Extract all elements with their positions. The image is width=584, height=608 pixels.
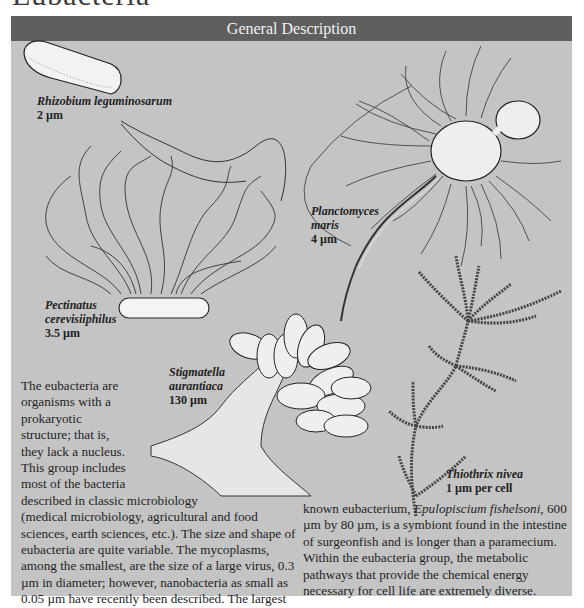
description-line: pathways that provide the chemical energ… [303, 567, 568, 583]
pectinatus-name-line2: cerevisiiphilus [45, 312, 116, 326]
description-line: µm in diameter; however, nanobacteria as… [21, 575, 321, 591]
description-line: of surgeonfish and is longer than a para… [303, 534, 568, 550]
epulopiscium-name: Epulopiscium fishelsoni [414, 501, 540, 516]
description-line: sciences, earth sciences, etc.). The siz… [21, 526, 321, 542]
description-line: Within the eubacteria group, the metabol… [303, 550, 568, 566]
description-line: among the smallest, are the size of a la… [21, 558, 321, 574]
pectinatus-size: 3.5 µm [45, 326, 116, 340]
stigmatella-name-line1: Stigmatella [169, 365, 225, 379]
pectinatus-name-line1: Pectinatus [45, 298, 116, 312]
rhizobium-label: Rhizobium leguminosarum 2 µm [37, 94, 172, 122]
thiothrix-label: Thiothrix nivea 1 µm per cell [446, 467, 523, 495]
description-line: they lack a nucleus. [21, 444, 321, 460]
description-line: organisms with a [21, 394, 321, 410]
description-line: This group includes [21, 460, 321, 476]
pectinatus-label: Pectinatus cerevisiiphilus 3.5 µm [45, 298, 116, 340]
planctomyces-size: 4 µm [311, 232, 379, 246]
description-line: 0.05 µm have recently been described. Th… [21, 591, 321, 607]
thiothrix-size: 1 µm per cell [446, 481, 523, 495]
planctomyces-label: Planctomyces maris 4 µm [311, 204, 379, 246]
description-left: The eubacteria are organisms with a prok… [21, 378, 321, 608]
page-title: Eubacteria [12, 0, 150, 12]
description-line: µm by 80 µm, is a symbiont found in the … [303, 517, 568, 533]
description-line: eubacteria are quite variable. The mycop… [21, 542, 321, 558]
description-line: necessary for cell life are extremely di… [303, 583, 568, 599]
description-line: structure; that is, [21, 427, 321, 443]
pectinatus-illustration [46, 146, 276, 318]
general-description-panel: General Description [11, 16, 572, 596]
description-line: The eubacteria are [21, 378, 321, 394]
rhizobium-name: Rhizobium leguminosarum [37, 94, 172, 108]
description-right: known eubacterium, Epulopiscium fishelso… [303, 501, 568, 599]
thiothrix-name: Thiothrix nivea [446, 467, 523, 481]
description-line: most of the bacteria [21, 476, 321, 492]
description-line: known eubacterium, Epulopiscium fishelso… [303, 501, 568, 517]
description-line: described in classic microbiology [21, 493, 321, 509]
description-line: (medical microbiology, agricultural and … [21, 509, 321, 525]
description-line: prokaryotic [21, 411, 321, 427]
planctomyces-illustration [304, 46, 561, 321]
planctomyces-name-line2: maris [311, 218, 379, 232]
planctomyces-name-line1: Planctomyces [311, 204, 379, 218]
rhizobium-size: 2 µm [37, 108, 172, 122]
